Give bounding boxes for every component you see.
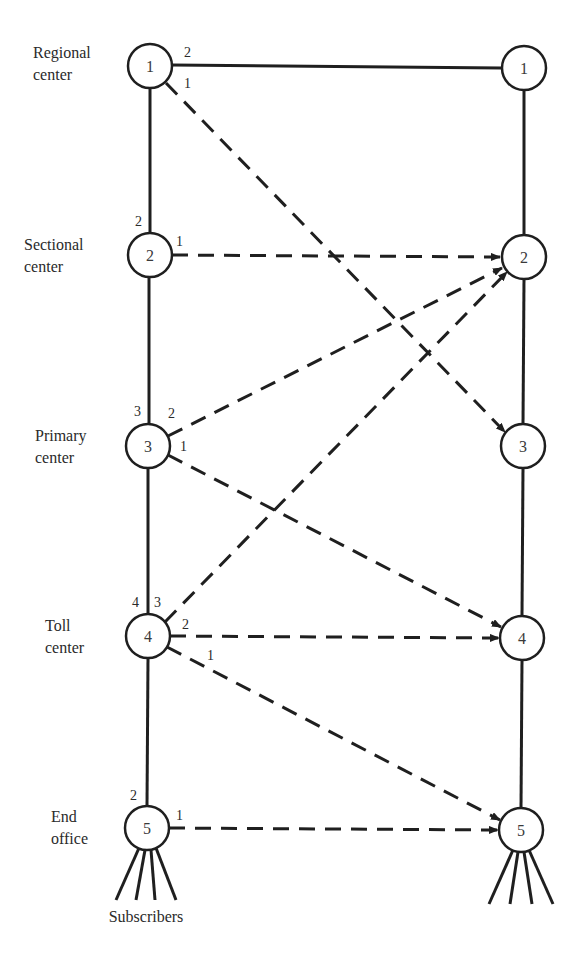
svg-text:3: 3	[519, 438, 527, 455]
regional-link	[172, 65, 501, 68]
right-node-3: 3	[501, 424, 545, 468]
svg-text:2: 2	[135, 214, 142, 229]
svg-text:End: End	[51, 808, 77, 825]
svg-text:1: 1	[176, 808, 183, 823]
svg-text:4: 4	[518, 630, 526, 647]
svg-text:3: 3	[134, 404, 141, 419]
left-node-3: 3	[126, 424, 170, 468]
right-node-4: 4	[500, 616, 544, 660]
svg-text:office: office	[51, 830, 88, 847]
svg-text:2: 2	[146, 247, 154, 264]
svg-text:center: center	[45, 639, 85, 656]
svg-text:2: 2	[184, 45, 191, 60]
svg-text:4: 4	[144, 628, 152, 645]
level-label-end-office: End office	[51, 808, 88, 847]
right-node-5: 5	[499, 808, 543, 852]
svg-text:2: 2	[130, 788, 137, 803]
left-subscriber-lines	[116, 848, 176, 900]
level-label-primary: Primary center	[35, 427, 87, 466]
svg-text:Sectional: Sectional	[24, 236, 84, 253]
level-label-regional: Regional center	[33, 44, 91, 83]
svg-text:Toll: Toll	[45, 617, 71, 634]
svg-text:Regional: Regional	[33, 44, 91, 62]
left-node-1: 1	[128, 44, 172, 88]
svg-text:1: 1	[207, 648, 214, 663]
high-usage-trunks	[165, 83, 507, 830]
right-node-1: 1	[502, 46, 546, 90]
subscribers-label: Subscribers	[109, 908, 184, 925]
svg-text:center: center	[35, 449, 75, 466]
svg-text:2: 2	[182, 617, 189, 632]
right-node-2: 2	[502, 235, 546, 279]
svg-text:1: 1	[520, 60, 528, 77]
left-node-4: 4	[126, 614, 170, 658]
svg-text:1: 1	[184, 76, 191, 91]
left-node-5: 5	[125, 806, 169, 850]
hierarchical-routing-diagram: 1 2 3 4 5 1 2 3 4 5 Regional center	[0, 0, 585, 953]
level-label-sectional: Sectional center	[24, 236, 84, 275]
svg-text:5: 5	[143, 820, 151, 837]
svg-text:2: 2	[520, 249, 528, 266]
left-node-2: 2	[128, 233, 172, 277]
svg-text:1: 1	[146, 58, 154, 75]
svg-text:2: 2	[168, 406, 175, 421]
right-subscriber-lines	[489, 850, 553, 904]
svg-text:center: center	[33, 66, 73, 83]
svg-text:1: 1	[180, 439, 187, 454]
svg-text:Primary: Primary	[35, 427, 87, 445]
svg-text:5: 5	[517, 822, 525, 839]
svg-text:3: 3	[144, 438, 152, 455]
svg-text:center: center	[24, 258, 64, 275]
svg-text:3: 3	[154, 595, 161, 610]
svg-text:4: 4	[132, 595, 139, 610]
level-label-toll: Toll center	[45, 617, 85, 656]
svg-text:1: 1	[176, 234, 183, 249]
